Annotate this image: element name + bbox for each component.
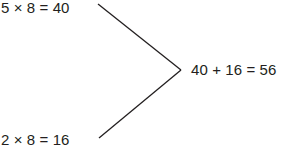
connector-lines bbox=[0, 0, 286, 148]
bottom-connector-line bbox=[99, 70, 181, 138]
top-connector-line bbox=[98, 4, 181, 70]
